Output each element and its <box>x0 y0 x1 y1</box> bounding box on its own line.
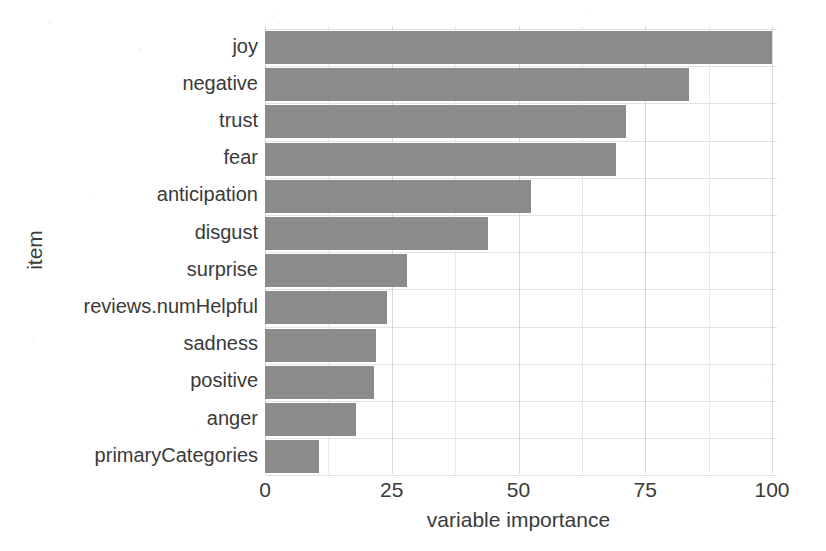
y-tick-label-trust: trust <box>8 109 258 132</box>
x-tick-label-25: 25 <box>352 478 432 502</box>
horizontal-gridline <box>265 438 777 439</box>
horizontal-gridline <box>265 401 777 402</box>
bar-sadness <box>265 329 376 362</box>
y-tick-label-fear: fear <box>8 146 258 169</box>
bar-fear <box>265 143 616 176</box>
bar-anticipation <box>265 180 531 213</box>
horizontal-gridline <box>265 66 777 67</box>
y-tick-label-sadness: sadness <box>8 332 258 355</box>
horizontal-gridline <box>265 252 777 253</box>
y-tick-label-anticipation: anticipation <box>8 183 258 206</box>
bar-trust <box>265 105 626 138</box>
y-tick-label-positive: positive <box>8 369 258 392</box>
horizontal-gridline <box>265 327 777 328</box>
bar-negative <box>265 68 689 101</box>
horizontal-gridline <box>265 364 777 365</box>
y-tick-label-joy: joy <box>8 35 258 58</box>
y-tick-label-surprise: surprise <box>8 258 258 281</box>
x-axis: 0255075100 <box>0 478 826 512</box>
x-tick-label-50: 50 <box>479 478 559 502</box>
plot-area <box>265 26 777 474</box>
horizontal-gridline <box>265 289 777 290</box>
x-tick-label-75: 75 <box>605 478 685 502</box>
bar-disgust <box>265 217 488 250</box>
x-tick-label-0: 0 <box>225 478 305 502</box>
x-tick-label-100: 100 <box>732 478 812 502</box>
y-tick-label-primarycategories: primaryCategories <box>8 444 258 467</box>
bar-positive <box>265 366 374 399</box>
bar-primarycategories <box>265 440 319 473</box>
bar-reviews-numhelpful <box>265 291 387 324</box>
bar-joy <box>265 31 772 64</box>
horizontal-gridline <box>265 215 777 216</box>
bar-surprise <box>265 254 407 287</box>
vertical-gridline <box>772 26 773 474</box>
variable-importance-bar-chart: item joynegativetrustfearanticipationdis… <box>0 0 826 551</box>
horizontal-gridline <box>265 178 777 179</box>
vertical-gridline-minor <box>709 26 710 474</box>
x-axis-title: variable importance <box>265 508 772 532</box>
bar-anger <box>265 403 356 436</box>
horizontal-gridline <box>265 103 777 104</box>
horizontal-gridline <box>265 29 777 30</box>
y-tick-label-disgust: disgust <box>8 221 258 244</box>
y-tick-label-anger: anger <box>8 407 258 430</box>
horizontal-gridline <box>265 141 777 142</box>
y-tick-label-reviews-numhelpful: reviews.numHelpful <box>8 295 258 318</box>
category-axis: joynegativetrustfearanticipationdisgusts… <box>0 0 258 551</box>
y-tick-label-negative: negative <box>8 72 258 95</box>
horizontal-gridline <box>265 475 777 476</box>
